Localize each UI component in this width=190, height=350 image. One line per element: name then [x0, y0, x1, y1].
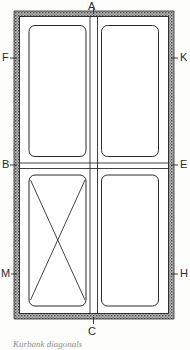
- label-a: A: [88, 1, 96, 12]
- label-f: F: [2, 52, 9, 63]
- lower-right-panel: [102, 175, 159, 306]
- label-k: K: [180, 52, 188, 63]
- label-h: H: [180, 268, 188, 279]
- drawing-canvas: A F K B E M H C Kurbank diagonals: [0, 0, 190, 350]
- label-c: C: [88, 326, 96, 337]
- label-e: E: [180, 159, 188, 170]
- label-b: B: [2, 159, 10, 170]
- figure-caption: Kurbank diagonals: [13, 339, 82, 350]
- panel-frame-diagram: [0, 0, 190, 350]
- upper-left-panel: [29, 26, 86, 157]
- label-m: M: [1, 268, 10, 279]
- upper-right-panel: [102, 26, 159, 157]
